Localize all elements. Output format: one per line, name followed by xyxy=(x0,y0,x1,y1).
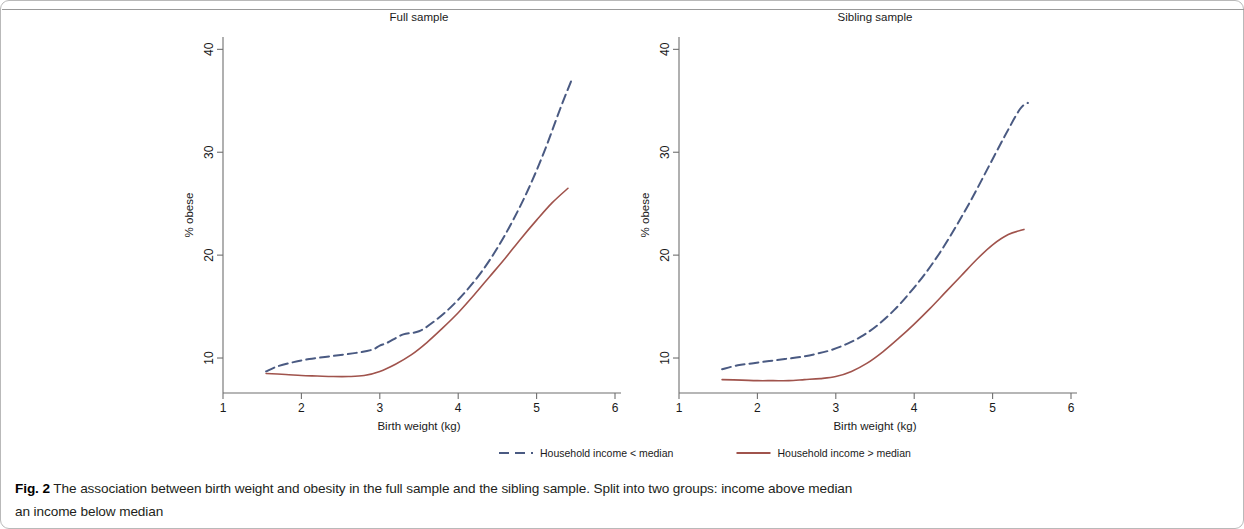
x-tick-label: 5 xyxy=(989,401,996,415)
chart-legend: Household income < medianHousehold incom… xyxy=(499,447,911,459)
figure-label: Fig. 2 xyxy=(15,481,50,496)
x-tick-label: 1 xyxy=(220,401,227,415)
panel-title: Full sample xyxy=(390,11,449,23)
legend-label-1: Household income < median xyxy=(540,447,674,459)
x-tick-label: 3 xyxy=(376,401,383,415)
y-tick-label: 20 xyxy=(202,248,216,262)
caption-line-2: an income below median xyxy=(15,500,1231,523)
y-tick-label: 40 xyxy=(658,42,672,56)
figure-caption: Fig. 2 The association between birth wei… xyxy=(1,469,1244,529)
x-axis-title: Birth weight (kg) xyxy=(377,420,460,432)
y-tick-label: 20 xyxy=(658,248,672,262)
y-tick-label: 30 xyxy=(658,145,672,159)
chart-panel-2: Sibling sample10203040% obese123456Birth… xyxy=(639,11,1077,432)
series-line-1 xyxy=(266,79,572,371)
caption-text-1: The association between birth weight and… xyxy=(53,481,852,496)
y-tick-label: 30 xyxy=(202,145,216,159)
legend-label-2: Household income > median xyxy=(778,447,912,459)
x-tick-label: 4 xyxy=(911,401,918,415)
y-tick-label: 40 xyxy=(202,42,216,56)
x-axis-title: Birth weight (kg) xyxy=(833,420,916,432)
x-tick-label: 5 xyxy=(533,401,540,415)
y-axis-title: % obese xyxy=(183,193,195,238)
series-line-2 xyxy=(266,188,568,376)
series-line-1 xyxy=(722,103,1028,369)
x-tick-label: 2 xyxy=(754,401,761,415)
caption-line-1: Fig. 2 The association between birth wei… xyxy=(15,477,1231,500)
x-tick-label: 3 xyxy=(832,401,839,415)
series-line-2 xyxy=(722,229,1024,380)
x-tick-label: 4 xyxy=(455,401,462,415)
chart-panel-1: Full sample10203040% obese123456Birth we… xyxy=(183,11,621,432)
chart-svg: Full sample10203040% obese123456Birth we… xyxy=(1,1,1244,471)
y-axis-title: % obese xyxy=(639,193,651,238)
panel-title: Sibling sample xyxy=(838,11,913,23)
x-tick-label: 1 xyxy=(676,401,683,415)
x-tick-label: 6 xyxy=(612,401,619,415)
x-tick-label: 2 xyxy=(298,401,305,415)
x-tick-label: 6 xyxy=(1068,401,1075,415)
plots-area: Full sample10203040% obese123456Birth we… xyxy=(1,1,1244,471)
figure-container: Full sample10203040% obese123456Birth we… xyxy=(0,0,1244,529)
y-tick-label: 10 xyxy=(658,351,672,365)
y-tick-label: 10 xyxy=(202,351,216,365)
